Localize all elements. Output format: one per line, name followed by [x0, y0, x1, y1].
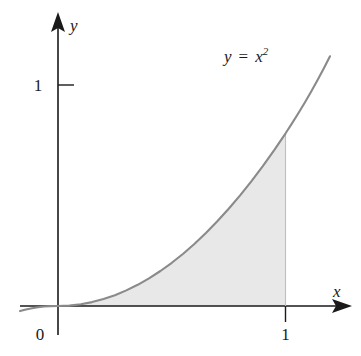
- curve-equation-label: y=x2: [222, 45, 269, 66]
- figure-canvas: y x 1 1 0 y=x2: [0, 0, 361, 356]
- curve-equation-lhs: y: [222, 47, 232, 66]
- parabola-plot: y x 1 1 0 y=x2: [0, 0, 361, 356]
- y-axis-label: y: [68, 16, 78, 35]
- area-under-curve-shading-exact: [58, 133, 286, 306]
- curve-equation-equals: =: [239, 47, 249, 66]
- x-axis-label: x: [332, 282, 341, 301]
- x-axis-tick-label-1: 1: [281, 325, 290, 344]
- curve-equation-exponent: 2: [263, 45, 269, 57]
- origin-label: 0: [36, 325, 45, 344]
- y-axis-tick-label-1: 1: [34, 76, 43, 95]
